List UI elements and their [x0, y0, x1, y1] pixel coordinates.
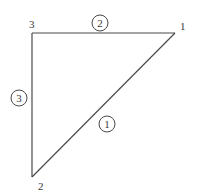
edge-label-3: 3	[11, 90, 27, 106]
edge-1	[32, 33, 175, 177]
edge-label-2: 2	[92, 15, 108, 31]
node-label-3: 3	[29, 18, 35, 30]
triangle-diagram: 1 2 3 1 2 3	[0, 0, 197, 194]
edge-label-text-1: 1	[104, 118, 110, 130]
node-label-1: 1	[180, 20, 186, 32]
edge-label-1: 1	[99, 116, 115, 132]
edge-label-text-2: 2	[97, 17, 103, 29]
edge-label-text-3: 3	[16, 92, 22, 104]
node-label-2: 2	[38, 180, 44, 192]
